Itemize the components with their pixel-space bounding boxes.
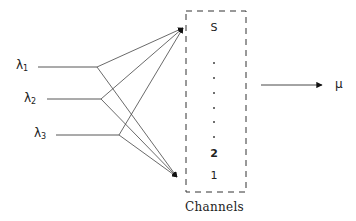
branch-2-to-s [101, 28, 183, 99]
lambda-subscript: 3 [41, 132, 46, 141]
branch-1-to-s [97, 28, 183, 67]
lambda-1-label: λ1 [16, 59, 28, 75]
ellipsis-dot [213, 77, 215, 79]
ellipsis-dot [213, 121, 215, 123]
channel-s-label: S [204, 22, 224, 33]
lambda-subscript: 1 [23, 64, 28, 73]
branch-3-to-s [119, 28, 183, 135]
ellipsis-dot [213, 62, 215, 64]
channels-box [186, 11, 246, 192]
channels-caption: Channels [185, 200, 244, 214]
diagram-canvas [0, 0, 356, 221]
branch-3-to-1 [119, 135, 177, 177]
channel-1-label: 1 [204, 170, 224, 181]
channel-2-label: 2 [204, 148, 224, 159]
ellipsis-dot [213, 107, 215, 109]
ellipsis-dot [213, 136, 215, 138]
lambda-3-label: λ3 [34, 127, 46, 143]
lambda-2-label: λ2 [24, 92, 36, 108]
lambda-subscript: 2 [31, 97, 36, 106]
branch-2-to-1 [101, 99, 177, 177]
ellipsis-dot [213, 92, 215, 94]
mu-label: μ [335, 78, 343, 90]
branch-1-to-1 [97, 67, 177, 177]
